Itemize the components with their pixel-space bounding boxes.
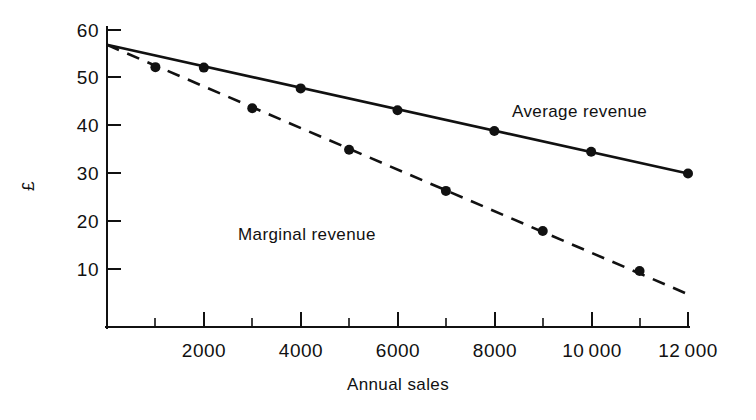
y-tick-label-30: 30	[77, 163, 99, 184]
x-tick-label-12000: 12 000	[658, 340, 718, 361]
y-tick-label-10: 10	[77, 259, 99, 280]
data-point	[683, 169, 693, 179]
x-tick-label-10000: 10 000	[562, 340, 622, 361]
series-label-average-revenue: Average revenue	[512, 102, 647, 121]
data-point	[538, 226, 548, 236]
chart-canvas: 60 50 40 30 20 10 £ 20	[0, 0, 756, 420]
y-tick-label-20: 20	[77, 211, 99, 232]
x-tick-label-8000: 8000	[473, 340, 517, 361]
y-axis-title: £	[19, 181, 38, 191]
data-point	[296, 83, 306, 93]
data-point	[586, 147, 596, 157]
data-point	[489, 126, 499, 136]
x-tick-label-4000: 4000	[279, 340, 323, 361]
data-point	[441, 186, 451, 196]
y-tick-label-60: 60	[77, 20, 99, 41]
x-tick-label-6000: 6000	[376, 340, 420, 361]
data-point	[247, 103, 257, 113]
series-label-marginal-revenue: Marginal revenue	[238, 225, 376, 244]
data-point	[150, 62, 160, 72]
data-point	[344, 145, 354, 155]
y-tick-label-50: 50	[77, 67, 99, 88]
x-tick-label-2000: 2000	[182, 340, 226, 361]
x-axis-title: Annual sales	[347, 375, 449, 394]
data-point	[635, 266, 645, 276]
data-point	[199, 63, 209, 73]
y-tick-label-40: 40	[77, 115, 99, 136]
revenue-chart: 60 50 40 30 20 10 £ 20	[0, 0, 756, 420]
data-point	[393, 105, 403, 115]
